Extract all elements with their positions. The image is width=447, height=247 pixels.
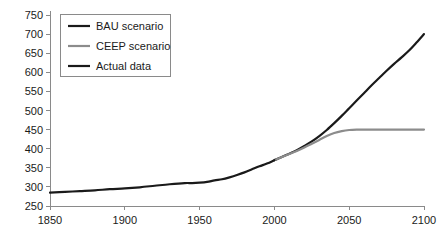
series-line-actual-data	[50, 160, 274, 192]
legend-label: Actual data	[96, 60, 152, 72]
x-axis: 185019001950200020502100	[38, 206, 436, 226]
y-tick-label: 300	[25, 181, 43, 193]
x-tick-label: 2000	[262, 214, 286, 226]
series-line-ceep-scenario	[274, 130, 424, 161]
y-tick-label: 650	[25, 47, 43, 59]
y-tick-label: 550	[25, 85, 43, 97]
y-tick-label: 600	[25, 66, 43, 78]
y-axis: 250300350400450500550600650700750	[25, 9, 50, 212]
y-tick-label: 350	[25, 162, 43, 174]
y-tick-label: 400	[25, 143, 43, 155]
chart-container: 250300350400450500550600650700750 185019…	[0, 0, 447, 247]
x-tick-label: 1850	[38, 214, 62, 226]
series-line-bau-scenario	[274, 34, 424, 160]
y-tick-group: 250300350400450500550600650700750	[25, 9, 50, 212]
y-tick-label: 500	[25, 105, 43, 117]
x-tick-label: 2100	[412, 214, 436, 226]
y-tick-label: 250	[25, 200, 43, 212]
x-tick-label: 1950	[187, 214, 211, 226]
x-tick-label: 1900	[113, 214, 137, 226]
x-tick-group: 185019001950200020502100	[38, 206, 436, 226]
line-chart: 250300350400450500550600650700750 185019…	[0, 0, 447, 247]
y-tick-label: 450	[25, 124, 43, 136]
y-tick-label: 750	[25, 9, 43, 21]
legend-label: BAU scenario	[96, 20, 163, 32]
chart-legend: BAU scenarioCEEP scenarioActual data	[60, 14, 170, 76]
y-tick-label: 700	[25, 28, 43, 40]
legend-label: CEEP scenario	[96, 40, 170, 52]
x-tick-label: 2050	[337, 214, 361, 226]
